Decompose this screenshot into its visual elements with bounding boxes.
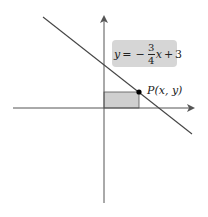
- point-label: P(x, y): [147, 84, 182, 97]
- eq-equals: =: [122, 48, 131, 61]
- shaded-rectangle: [104, 92, 139, 108]
- eq-plus: +: [164, 48, 173, 61]
- point-coords: (x, y): [154, 84, 182, 97]
- graph-line: [43, 17, 192, 134]
- eq-lhs: y: [114, 48, 120, 61]
- equation-label: y = − 3 4 x + 3: [114, 42, 182, 66]
- point-p: [136, 89, 141, 94]
- eq-numerator: 3: [148, 43, 154, 53]
- eq-denominator: 4: [148, 56, 154, 66]
- eq-fraction: 3 4: [148, 43, 155, 66]
- diagram-canvas: [0, 0, 208, 217]
- eq-sign: −: [135, 48, 144, 61]
- eq-variable: x: [156, 48, 162, 61]
- eq-constant: 3: [175, 48, 182, 61]
